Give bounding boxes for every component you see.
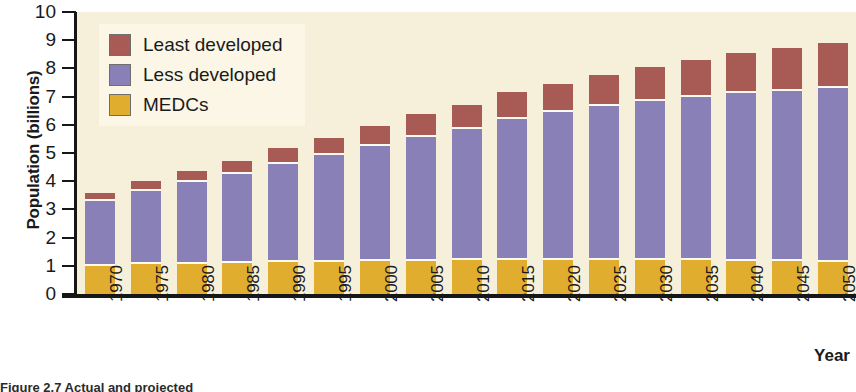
y-tick <box>62 124 76 126</box>
y-tick <box>62 237 76 239</box>
bar-segment-least-developed <box>772 48 802 90</box>
y-tick-label: 1 <box>24 256 56 275</box>
y-tick-label: 5 <box>24 143 56 162</box>
bar-segment-least-developed <box>543 84 573 112</box>
y-tick <box>62 208 76 210</box>
bar-segment-least-developed <box>85 193 115 201</box>
x-tick-label: 1970 <box>107 232 127 302</box>
bar-segment-least-developed <box>222 161 252 174</box>
y-tick-label: 10 <box>24 2 56 21</box>
y-tick-label: 6 <box>24 115 56 134</box>
legend-label-medcs: MEDCs <box>143 94 208 116</box>
legend-item-medcs: MEDCs <box>109 90 295 120</box>
x-tick-label: 2045 <box>794 232 814 302</box>
y-tick <box>62 293 76 295</box>
x-tick-label: 1995 <box>336 232 356 302</box>
x-tick-label: 2000 <box>382 232 402 302</box>
bar-segment-least-developed <box>589 75 619 106</box>
bar-segment-least-developed <box>131 181 161 191</box>
x-tick-label: 2020 <box>565 232 585 302</box>
y-tick <box>62 11 76 13</box>
y-tick-label: 8 <box>24 58 56 77</box>
legend-swatch-least-developed <box>109 34 131 56</box>
x-tick-label: 1990 <box>290 232 310 302</box>
bar-segment-least-developed <box>268 148 298 164</box>
x-tick-label: 1985 <box>244 232 264 302</box>
y-tick-label: 0 <box>24 284 56 303</box>
y-tick-label: 4 <box>24 171 56 190</box>
x-axis-title: Year <box>814 346 850 366</box>
y-tick <box>62 96 76 98</box>
bar-segment-least-developed <box>406 114 436 137</box>
legend-item-least-developed: Least developed <box>109 30 295 60</box>
bar-segment-least-developed <box>818 43 848 88</box>
x-tick-label: 2015 <box>519 232 539 302</box>
bar-segment-least-developed <box>726 53 756 92</box>
bar-segment-least-developed <box>360 126 390 146</box>
bar-segment-least-developed <box>177 171 207 182</box>
y-tick <box>62 265 76 267</box>
x-axis-line <box>62 294 856 298</box>
x-tick-label: 2050 <box>840 232 856 302</box>
y-tick-label: 2 <box>24 228 56 247</box>
legend-item-less-developed: Less developed <box>109 60 295 90</box>
y-tick-label: 9 <box>24 30 56 49</box>
x-tick-label: 2010 <box>474 232 494 302</box>
bar-segment-least-developed <box>452 105 482 129</box>
x-tick-label: 2005 <box>428 232 448 302</box>
y-tick <box>62 152 76 154</box>
bar-segment-least-developed <box>635 67 665 101</box>
chart-legend: Least developed Less developed MEDCs <box>99 24 305 126</box>
legend-swatch-medcs <box>109 94 131 116</box>
legend-label-less-developed: Less developed <box>143 64 276 86</box>
legend-label-least-developed: Least developed <box>143 34 282 56</box>
legend-swatch-less-developed <box>109 64 131 86</box>
y-tick-label: 7 <box>24 87 56 106</box>
bar-segment-least-developed <box>314 138 344 155</box>
bar-segment-least-developed <box>681 60 711 97</box>
x-tick-label: 2040 <box>748 232 768 302</box>
x-tick-label: 1975 <box>153 232 173 302</box>
bar-segment-least-developed <box>497 92 527 119</box>
x-tick-label: 1980 <box>199 232 219 302</box>
y-tick <box>62 67 76 69</box>
y-tick <box>62 180 76 182</box>
figure-caption: Figure 2.7 Actual and projected <box>0 380 193 392</box>
y-tick-label: 3 <box>24 199 56 218</box>
x-tick-label: 2025 <box>611 232 631 302</box>
x-tick-label: 2030 <box>657 232 677 302</box>
x-tick-label: 2035 <box>703 232 723 302</box>
y-tick <box>62 39 76 41</box>
